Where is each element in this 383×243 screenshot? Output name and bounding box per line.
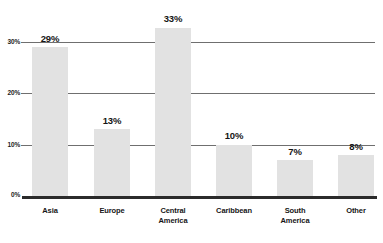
category-label-central-america: Central America xyxy=(145,206,201,225)
category-label-south-america: South America xyxy=(267,206,323,225)
value-label-south-america: 7% xyxy=(277,146,313,157)
ytick-dash-30 xyxy=(21,42,26,43)
category-label-central-america-line2: America xyxy=(145,216,201,226)
bar-europe xyxy=(94,129,130,196)
ytick-label-30: 30% xyxy=(0,38,20,45)
category-label-south-america-line2: America xyxy=(267,216,323,226)
category-label-other: Other xyxy=(328,206,383,216)
gridline-10 xyxy=(26,145,375,146)
category-label-asia-line1: Asia xyxy=(22,206,78,216)
ytick-label-20: 20% xyxy=(0,89,20,96)
bar-central-america xyxy=(155,28,191,196)
category-label-asia: Asia xyxy=(22,206,78,216)
category-label-caribbean: Caribbean xyxy=(206,206,262,216)
gridline-20 xyxy=(26,93,375,94)
bar-caribbean xyxy=(216,145,252,196)
plot-area: 30% 20% 10% 0% 29% 13% 33% 10% 7% 8% Asi… xyxy=(0,0,383,243)
ytick-dash-10 xyxy=(21,145,26,146)
bar-chart: 30% 20% 10% 0% 29% 13% 33% 10% 7% 8% Asi… xyxy=(0,0,383,243)
ytick-dash-20 xyxy=(21,93,26,94)
value-label-caribbean: 10% xyxy=(216,130,252,141)
bar-asia xyxy=(32,47,68,196)
category-label-caribbean-line1: Caribbean xyxy=(206,206,262,216)
category-label-other-line1: Other xyxy=(328,206,383,216)
bar-other xyxy=(338,155,374,196)
category-label-central-america-line1: Central xyxy=(145,206,201,216)
ytick-label-10: 10% xyxy=(0,141,20,148)
x-axis-baseline xyxy=(22,196,377,199)
bar-south-america xyxy=(277,160,313,196)
value-label-europe: 13% xyxy=(94,115,130,126)
value-label-other: 8% xyxy=(338,141,374,152)
value-label-central-america: 33% xyxy=(155,13,191,24)
value-label-asia: 29% xyxy=(32,33,68,44)
gridline-30 xyxy=(26,42,375,43)
category-label-europe: Europe xyxy=(84,206,140,216)
ytick-label-0: 0% xyxy=(0,191,20,198)
category-label-south-america-line1: South xyxy=(267,206,323,216)
category-label-europe-line1: Europe xyxy=(84,206,140,216)
